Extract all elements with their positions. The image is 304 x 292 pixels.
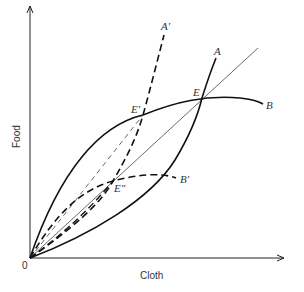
y-axis-label: Food: [11, 125, 22, 148]
terms-of-trade-ray: [30, 48, 258, 258]
point-label-e: E: [192, 86, 200, 98]
offer-curve-a: [30, 58, 216, 258]
offer-curve-b-prime: [30, 175, 176, 258]
curve-label-b-prime: B': [180, 173, 190, 185]
origin-label: 0: [22, 260, 28, 271]
x-axis-label: Cloth: [140, 270, 163, 281]
curve-label-b: B: [266, 99, 273, 111]
curve-label-a-prime: A': [160, 20, 171, 32]
offer-curve-b: [30, 97, 263, 258]
offer-curve-a-prime: [30, 35, 164, 258]
point-label-e-double-prime: E": [113, 182, 126, 194]
cropped-caption-fragment: [10, 284, 300, 292]
offer-curve-diagram: Food Cloth 0 A' A B B' E E' E": [0, 0, 304, 292]
curve-label-a: A: [213, 45, 221, 57]
point-label-e-prime: E': [130, 103, 141, 115]
ray-through-e-prime: [30, 115, 143, 258]
